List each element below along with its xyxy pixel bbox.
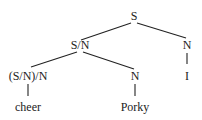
node-s-root: S <box>131 9 138 23</box>
edge-sn-to-n-mid <box>83 52 134 69</box>
node-n-right: N <box>183 38 192 52</box>
node-s-slash-n: S/N <box>71 38 90 52</box>
edge-s-to-n-right <box>137 23 186 38</box>
leaf-cheer: cheer <box>15 100 41 114</box>
parse-tree-diagram: S S/N N I (S/N)/N N cheer Porky <box>0 0 202 120</box>
node-s-n-slash-n: (S/N)/N <box>9 69 48 83</box>
leaf-porky: Porky <box>121 100 150 114</box>
leaf-i: I <box>185 69 189 83</box>
node-n-mid: N <box>131 69 140 83</box>
edge-sn-to-snn <box>31 52 77 67</box>
